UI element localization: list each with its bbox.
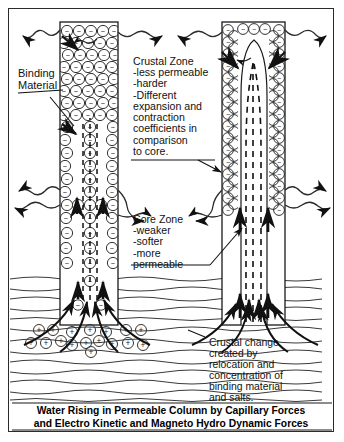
svg-text:−: −	[277, 147, 281, 154]
svg-text:−: −	[277, 171, 281, 178]
svg-text:−: −	[74, 63, 78, 72]
label-core-zone: Core Zone -weaker -softer -more permeabl…	[133, 214, 183, 270]
svg-text:−: −	[110, 111, 114, 120]
svg-text:−: −	[110, 214, 114, 223]
svg-text:−: −	[277, 63, 281, 70]
svg-text:−: −	[226, 123, 230, 130]
svg-text:+: +	[97, 336, 102, 346]
svg-text:−: −	[86, 87, 90, 96]
svg-text:−: −	[64, 244, 68, 253]
svg-text:−: −	[110, 39, 114, 48]
svg-text:−: −	[65, 149, 69, 158]
svg-text:−: −	[110, 162, 114, 171]
svg-text:−: −	[277, 123, 281, 130]
svg-text:−: −	[277, 159, 281, 166]
svg-text:−: −	[226, 207, 230, 214]
svg-text:−: −	[241, 26, 245, 33]
svg-text:−: −	[112, 75, 116, 84]
svg-text:−: −	[277, 111, 281, 118]
svg-text:−: −	[110, 136, 114, 145]
label-binding-material: Binding Material	[18, 68, 57, 91]
svg-text:−: −	[98, 39, 102, 48]
svg-text:−: −	[226, 135, 230, 142]
svg-text:−: −	[226, 63, 230, 70]
svg-text:−: −	[65, 99, 69, 108]
svg-text:−: −	[226, 39, 230, 46]
svg-text:−: −	[226, 159, 230, 166]
svg-text:−: −	[63, 136, 67, 145]
svg-text:−: −	[113, 51, 117, 60]
svg-text:−: −	[111, 229, 115, 238]
svg-text:−: −	[74, 87, 78, 96]
svg-text:−: −	[66, 51, 70, 60]
figure-caption: Water Rising in Permeable Column by Capi…	[12, 405, 330, 431]
svg-text:+: +	[126, 338, 131, 348]
svg-text:−: −	[226, 171, 230, 178]
svg-text:+: +	[70, 327, 75, 337]
svg-text:−: −	[65, 201, 69, 210]
caption-line-2: and Electro Kinetic and Magneto Hydro Dy…	[12, 418, 330, 431]
svg-text:−: −	[111, 175, 115, 184]
svg-text:−: −	[226, 87, 230, 94]
svg-text:−: −	[226, 147, 230, 154]
svg-text:−: −	[112, 99, 116, 108]
svg-text:−: −	[98, 111, 102, 120]
svg-text:−: −	[89, 99, 93, 108]
figure-root: −−−−− −−−−− −−−−− −−−−− −−−−− −−−−− −−−−…	[0, 0, 344, 442]
plus-glyphs: +++ ++++ +++ +++ +++ +	[29, 325, 146, 357]
svg-text:−: −	[78, 51, 82, 60]
svg-text:−: −	[65, 175, 69, 184]
svg-text:−: −	[226, 75, 230, 82]
svg-text:−: −	[65, 259, 69, 268]
svg-text:−: −	[89, 75, 93, 84]
svg-text:−: −	[226, 99, 230, 106]
svg-text:−: −	[98, 87, 102, 96]
svg-text:−: −	[64, 214, 68, 223]
svg-text:−: −	[99, 301, 103, 310]
svg-text:−: −	[63, 188, 67, 197]
svg-text:−: −	[77, 99, 81, 108]
caption-line-1: Water Rising in Permeable Column by Capi…	[12, 405, 330, 418]
svg-text:+: +	[44, 338, 49, 348]
label-crustal-zone: Crustal Zone -less permeable -harder -Di…	[133, 56, 208, 157]
svg-text:−: −	[277, 99, 281, 106]
svg-text:−: −	[277, 75, 281, 82]
svg-text:−: −	[102, 51, 106, 60]
svg-text:+: +	[139, 325, 144, 335]
svg-text:−: −	[62, 87, 66, 96]
svg-text:−: −	[101, 27, 105, 36]
svg-text:−: −	[98, 63, 102, 72]
svg-text:−: −	[277, 39, 281, 46]
svg-text:−: −	[226, 195, 230, 202]
svg-text:−: −	[110, 63, 114, 72]
svg-text:−: −	[110, 188, 114, 197]
svg-text:−: −	[62, 63, 66, 72]
svg-text:−: −	[277, 195, 281, 202]
svg-text:−: −	[263, 26, 267, 33]
svg-text:−: −	[65, 75, 69, 84]
svg-text:−: −	[89, 27, 93, 36]
svg-text:−: −	[65, 27, 69, 36]
svg-text:−: −	[111, 149, 115, 158]
right-column: −−−− −−−− −−−− −−−− −−−− −−−− −−−− −−−− …	[222, 22, 285, 325]
svg-text:−: −	[111, 201, 115, 210]
svg-text:−: −	[110, 87, 114, 96]
svg-text:+: +	[89, 347, 94, 357]
label-crustal-change: Crustal change created by relocation and…	[209, 337, 283, 403]
right-core-cavity	[241, 40, 267, 325]
svg-text:−: −	[226, 111, 230, 118]
svg-text:−: −	[65, 229, 69, 238]
svg-text:+: +	[59, 336, 64, 346]
svg-text:−: −	[101, 75, 105, 84]
svg-text:−: −	[252, 26, 256, 33]
svg-text:−: −	[77, 27, 81, 36]
svg-text:−: −	[226, 27, 230, 34]
svg-text:−: −	[277, 27, 281, 34]
svg-text:−: −	[76, 301, 80, 310]
svg-text:−: −	[111, 123, 115, 132]
svg-text:−: −	[63, 162, 67, 171]
svg-text:−: −	[74, 111, 78, 120]
svg-text:−: −	[111, 259, 115, 268]
svg-text:−: −	[226, 183, 230, 190]
svg-text:−: −	[90, 51, 94, 60]
